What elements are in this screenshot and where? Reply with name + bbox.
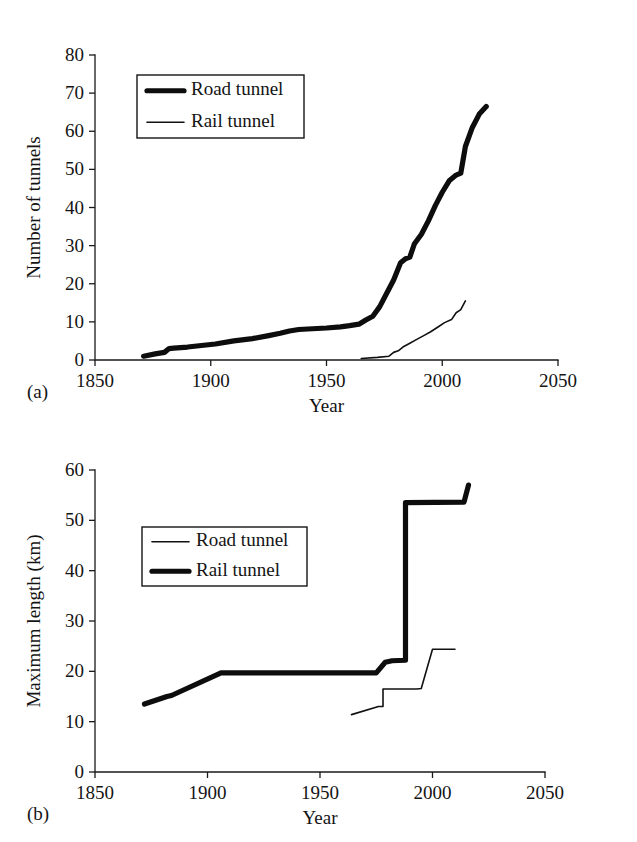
x-tick-label: 1900 [189,782,227,803]
y-axis-title: Number of tunnels [23,136,44,278]
series-line-rail-tunnel [145,485,469,704]
x-tick-label: 1900 [192,370,230,391]
x-tick-label: 2000 [423,370,461,391]
x-tick-label: 2050 [526,782,564,803]
y-tick-label: 70 [65,82,84,103]
legend-label: Rail tunnel [196,559,280,580]
y-tick-label: 10 [65,311,84,332]
x-tick-label: 1950 [308,370,346,391]
chart-maximum-length: 010203040506018501900195020002050YearMax… [0,420,637,842]
x-tick-label: 2050 [539,370,577,391]
y-tick-label: 20 [65,273,84,294]
y-tick-label: 50 [65,509,84,530]
x-tick-label: 1950 [301,782,339,803]
legend-label: Rail tunnel [191,110,275,131]
y-tick-label: 80 [65,44,84,65]
y-tick-label: 30 [65,235,84,256]
y-tick-label: 0 [75,349,85,370]
chart-number-of-tunnels: 0102030405060708018501900195020002050Yea… [0,0,637,420]
legend-label: Road tunnel [196,529,288,550]
x-tick-label: 1850 [76,370,114,391]
panel-label-b: (b) [27,803,49,825]
panel-label-a: (a) [27,381,48,403]
y-tick-label: 60 [65,459,84,480]
figure-panel-a: 0102030405060708018501900195020002050Yea… [0,0,637,420]
legend-label: Road tunnel [191,78,283,99]
y-tick-label: 0 [75,761,85,782]
y-tick-label: 10 [65,711,84,732]
x-tick-label: 2000 [414,782,452,803]
y-tick-label: 40 [65,197,84,218]
y-axis-title: Maximum length (km) [23,534,45,707]
y-tick-label: 20 [65,660,84,681]
x-axis-title: Year [309,395,345,416]
series-line-road-tunnel [144,106,487,356]
y-tick-label: 60 [65,120,84,141]
y-tick-label: 40 [65,560,84,581]
x-axis-title: Year [302,807,338,828]
axis-lines [95,470,545,772]
y-tick-label: 30 [65,610,84,631]
figure-panel-b: 010203040506018501900195020002050YearMax… [0,420,637,842]
y-tick-label: 50 [65,158,84,179]
x-tick-label: 1850 [76,782,114,803]
